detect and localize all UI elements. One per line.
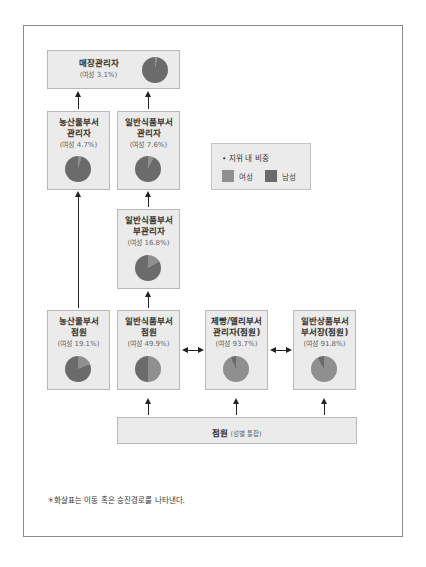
position-title: 일반상품부서 부서장(점원) <box>294 316 355 338</box>
pie-chart <box>311 356 337 382</box>
double-arrow-icon <box>275 350 287 351</box>
pie-chart <box>135 255 161 281</box>
arrow-up-icon <box>148 403 149 415</box>
arrow-up-icon <box>148 296 149 308</box>
footnote: ＊화살표는 이동 혹은 승진경로를 나타낸다. <box>47 494 185 505</box>
box-grocery-clerk: 일반식품부서 점원 (여성 49.9%) <box>117 310 180 390</box>
female-share: (여성 3.1%) <box>48 70 149 80</box>
box-store-manager: 매장관리자 (여성 3.1%) <box>47 50 180 89</box>
legend-title: • 지위 내 비중 <box>222 152 269 163</box>
legend-female-label: 여성 <box>239 171 253 182</box>
arrow-up-icon <box>324 403 325 415</box>
female-share: (여성 16.8%) <box>118 238 179 248</box>
box-produce-manager: 농산물부서 관리자 (여성 4.7%) <box>47 111 110 190</box>
pie-chart <box>223 356 249 382</box>
pie-chart <box>135 156 161 182</box>
arrow-up-icon <box>236 403 237 415</box>
female-share: (여성 4.7%) <box>48 140 109 150</box>
box-grocery-manager: 일반식품부서 관리자 (여성 7.6%) <box>117 111 180 190</box>
legend: • 지위 내 비중 여성 남성 <box>211 143 311 190</box>
box-bakery-deli-manager: 제빵/델리부서 관리자(점원) (여성 93.7%) <box>205 310 268 390</box>
diagram-frame <box>23 25 403 537</box>
female-share: (여성 93.7%) <box>206 339 267 349</box>
pie-chart <box>65 156 91 182</box>
female-share: (여성 49.9%) <box>118 339 179 349</box>
position-title: 제빵/델리부서 관리자(점원) <box>206 316 267 338</box>
female-share: (여성 19.1%) <box>48 339 109 349</box>
arrow-up-icon <box>78 96 79 109</box>
box-grocery-assistant-manager: 일반식품부서 부관리자 (여성 16.8%) <box>117 209 180 289</box>
pie-chart <box>65 356 91 382</box>
box-clerk-all: 점원(성별 통합) <box>117 417 357 444</box>
female-share: (여성 91.8%) <box>294 339 355 349</box>
pie-chart <box>135 356 161 382</box>
female-share: (여성 7.6%) <box>118 140 179 150</box>
box-produce-clerk: 농산물부서 점원 (여성 19.1%) <box>47 310 110 390</box>
legend-male-swatch <box>265 170 277 182</box>
position-title: 일반식품부서 점원 <box>118 316 179 338</box>
legend-female-swatch <box>222 170 234 182</box>
arrow-up-icon <box>148 196 149 207</box>
bottom-sub: (성별 통합) <box>230 430 261 438</box>
arrow-up-icon <box>148 96 149 109</box>
position-title: 일반식품부서 부관리자 <box>118 215 179 237</box>
legend-male-label: 남성 <box>282 171 296 182</box>
arrow-up-icon <box>78 196 79 308</box>
position-title: 매장관리자 <box>48 58 149 69</box>
position-title: 농산물부서 점원 <box>48 316 109 338</box>
position-title: 농산물부서 관리자 <box>48 117 109 139</box>
pie-chart <box>142 57 168 83</box>
position-title: 일반식품부서 관리자 <box>118 117 179 139</box>
bottom-title: 점원 <box>212 428 228 438</box>
box-general-merch-head: 일반상품부서 부서장(점원) (여성 91.8%) <box>293 310 356 390</box>
double-arrow-icon <box>187 350 199 351</box>
